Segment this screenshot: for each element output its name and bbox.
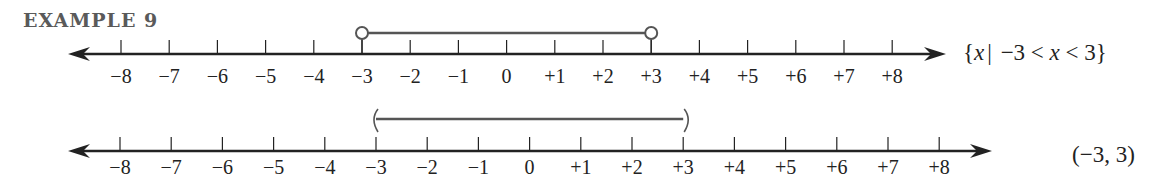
tick-label: −3 [351, 65, 372, 87]
tick-label: +3 [641, 65, 662, 87]
open-circle-left-icon [356, 27, 368, 39]
tick-label: −1 [468, 156, 489, 178]
number-lines-graphic: −8−7−6−5−4−3−2−10+1+2+3+4+5+6+7+8 −8−7−6… [0, 0, 1171, 189]
tick-label: −8 [110, 65, 131, 87]
tick-label: +8 [882, 65, 903, 87]
inequality-right: < 3} [1060, 40, 1107, 65]
tick-label: −4 [314, 156, 335, 178]
tick-label: −3 [365, 156, 386, 178]
tick-label: +4 [689, 65, 710, 87]
interval-notation: (−3, 3) [1072, 142, 1135, 168]
tick-label: −2 [417, 156, 438, 178]
tick-label: +1 [544, 65, 565, 87]
variable-x: x [974, 40, 984, 65]
variable-x: x [1050, 40, 1060, 65]
tick-label: −7 [161, 156, 182, 178]
tick-label: −1 [448, 65, 469, 87]
tick-label: 0 [525, 156, 535, 178]
tick-label: −5 [255, 65, 276, 87]
tick-label: +3 [673, 156, 694, 178]
tick-label: −5 [263, 156, 284, 178]
tick-label: +8 [929, 156, 950, 178]
tick-label: +2 [592, 65, 613, 87]
tick-label: +4 [724, 156, 745, 178]
tick-label: +5 [775, 156, 796, 178]
number-line-set-builder: −8−7−6−5−4−3−2−10+1+2+3+4+5+6+7+8 [68, 27, 946, 87]
tick-label: 0 [502, 65, 512, 87]
inequality-left: −3 < [995, 40, 1050, 65]
such-that-bar: | [987, 40, 992, 65]
tick-label: −6 [212, 156, 233, 178]
brace-open: { [963, 40, 974, 65]
tick-label: +5 [737, 65, 758, 87]
tick-label: +6 [785, 65, 806, 87]
tick-label: −8 [109, 156, 130, 178]
tick-label: −7 [159, 65, 180, 87]
tick-label: −4 [303, 65, 324, 87]
set-builder-notation: {x| −3 < x < 3} [963, 40, 1107, 66]
right-parenthesis-icon [684, 109, 688, 132]
tick-label: +7 [877, 156, 898, 178]
tick-label: +2 [621, 156, 642, 178]
tick-label: −6 [207, 65, 228, 87]
open-circle-right-icon [645, 27, 657, 39]
left-parenthesis-icon [374, 109, 378, 132]
tick-label: +1 [570, 156, 591, 178]
tick-label: −2 [400, 65, 421, 87]
tick-label: +7 [833, 65, 854, 87]
tick-label: +6 [826, 156, 847, 178]
number-line-interval: −8−7−6−5−4−3−2−10+1+2+3+4+5+6+7+8 [68, 109, 992, 178]
number-line-example: EXAMPLE 9 −8−7−6−5−4−3−2−10+1+2+3+4+5+6+… [0, 0, 1171, 189]
